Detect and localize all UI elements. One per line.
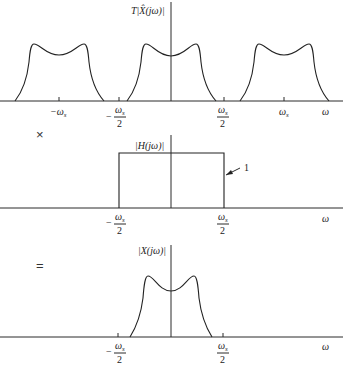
x-axis-label: ω	[322, 106, 329, 117]
x-axis-label: ω	[322, 341, 329, 352]
svg-text:2: 2	[117, 118, 122, 129]
svg-text:−: −	[106, 346, 112, 357]
svg-text:ωs: ωs	[115, 211, 125, 224]
tick-label-ws-half: ωs 2	[217, 211, 229, 236]
svg-text:2: 2	[220, 118, 225, 129]
y-axis-label: |X(jω)|	[138, 245, 166, 257]
tick-label-ws-half: ωs 2	[217, 104, 229, 129]
multiply-operator: ×	[36, 127, 44, 142]
svg-text:−: −	[106, 111, 112, 122]
svg-text:2: 2	[117, 354, 122, 365]
tick-label-ws-half: ωs 2	[217, 340, 229, 365]
svg-text:2: 2	[117, 225, 122, 236]
svg-text:ωs: ωs	[115, 104, 125, 117]
gain-label: 1	[244, 162, 249, 173]
tick-label-minus-ws-half: − ωs 2	[106, 211, 126, 236]
svg-text:−: −	[106, 217, 112, 228]
spectrum-lobe-left	[15, 44, 104, 101]
panel-sampled-spectrum: T|X̂(jω)| −ωs − ωs 2 ωs 2 ωs ω	[0, 2, 343, 129]
svg-text:ωs: ωs	[218, 104, 228, 117]
svg-text:2: 2	[220, 354, 225, 365]
tick-label-minus-ws-half: − ωs 2	[106, 340, 126, 365]
svg-text:ωs: ωs	[218, 340, 228, 353]
svg-text:ωs: ωs	[115, 340, 125, 353]
tick-label-minus-ws-half: − ωs 2	[106, 104, 126, 129]
tick-label-minus-ws: −ωs	[50, 106, 67, 119]
panel-lowpass-filter: × |H(jω)| 1 − ωs 2 ωs 2 ω	[0, 127, 343, 236]
y-axis-label: |H(jω)|	[135, 140, 164, 152]
arrow-head-icon	[226, 170, 233, 175]
x-axis-label: ω	[322, 213, 329, 224]
y-axis-label: T|X̂(jω)|	[131, 4, 165, 17]
panel-reconstructed-spectrum: = |X(jω)| − ωs 2 ωs 2 ω	[0, 245, 343, 365]
diagram-canvas: T|X̂(jω)| −ωs − ωs 2 ωs 2 ωs ω × |H(jω)|…	[0, 0, 343, 373]
svg-text:ωs: ωs	[218, 211, 228, 224]
spectrum-lobe-right	[240, 44, 329, 101]
svg-text:2: 2	[220, 225, 225, 236]
equals-operator: =	[36, 258, 44, 273]
tick-label-ws: ωs	[279, 106, 289, 119]
